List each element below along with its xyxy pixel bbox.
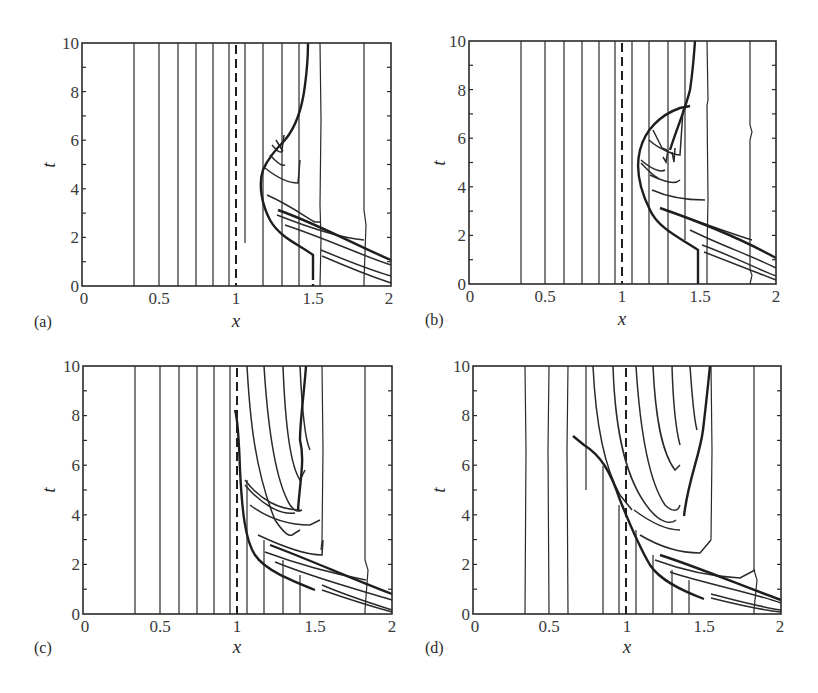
- svg-text:2: 2: [772, 287, 781, 306]
- x-tick-labels: 0 0.5 1 1.5 2: [81, 617, 397, 636]
- svg-text:0.5: 0.5: [534, 287, 555, 306]
- contour-lines: [245, 366, 392, 612]
- x-axis-label: x: [231, 310, 241, 331]
- shock-curve: [573, 436, 704, 599]
- svg-text:0: 0: [80, 289, 89, 308]
- plot-area: [521, 41, 776, 284]
- characteristic-lines: [521, 41, 752, 284]
- svg-text:0.5: 0.5: [538, 617, 559, 636]
- svg-text:4: 4: [462, 506, 471, 525]
- svg-text:8: 8: [72, 406, 81, 425]
- x-axis-label: x: [622, 636, 632, 657]
- contour-lines: [593, 366, 781, 612]
- svg-text:10: 10: [449, 32, 466, 51]
- characteristic-lines: [135, 366, 368, 614]
- svg-text:2: 2: [72, 555, 81, 574]
- svg-text:0.5: 0.5: [149, 617, 170, 636]
- svg-text:8: 8: [458, 81, 467, 100]
- y-axis-label: t: [428, 487, 449, 493]
- y-tick-labels: 0 2 4 6 8 10: [449, 32, 467, 294]
- panel-d: 0 2 4 6 8 10 0 0.5 1 1.5 2 t x (d): [425, 357, 784, 657]
- svg-text:8: 8: [462, 406, 471, 425]
- panel-c: 0 2 4 6 8 10 0 0.5 1 1.5 2 t x (c): [34, 357, 396, 657]
- characteristic-lines: [134, 43, 366, 286]
- svg-text:10: 10: [453, 357, 470, 376]
- svg-text:4: 4: [458, 178, 467, 197]
- svg-text:1.5: 1.5: [693, 617, 714, 636]
- svg-text:6: 6: [462, 456, 471, 475]
- svg-text:2: 2: [388, 617, 397, 636]
- svg-text:6: 6: [458, 129, 467, 148]
- y-axis-label: t: [38, 162, 59, 168]
- shock-curve: [261, 43, 313, 286]
- x-axis-label: x: [617, 308, 627, 329]
- x-axis-label: x: [232, 636, 242, 657]
- svg-text:6: 6: [71, 131, 80, 150]
- plot-area: [135, 366, 392, 614]
- y-tick-labels: 0 2 4 6 8 10: [453, 357, 471, 624]
- fan-edge: [278, 210, 391, 260]
- svg-text:2: 2: [385, 289, 394, 308]
- svg-text:0: 0: [71, 277, 80, 296]
- svg-text:0: 0: [72, 605, 81, 624]
- panel-label: (a): [34, 313, 52, 331]
- svg-text:0: 0: [458, 275, 467, 294]
- svg-text:1: 1: [233, 617, 242, 636]
- svg-text:0: 0: [466, 287, 475, 306]
- svg-text:0: 0: [471, 617, 480, 636]
- panel-a: 0 2 4 6 8 10 0 0.5 1 1.5 2 t x (a): [34, 34, 393, 331]
- plot-area: [525, 366, 781, 614]
- x-tick-labels: 0 0.5 1 1.5 2: [471, 617, 785, 636]
- panel-label: (d): [425, 639, 444, 657]
- svg-text:0.5: 0.5: [148, 289, 169, 308]
- upper-branch: [684, 366, 710, 516]
- figure: 0 2 4 6 8 10 0 0.5 1 1.5 2 t x (a): [0, 0, 818, 693]
- svg-text:4: 4: [71, 180, 80, 199]
- y-tick-labels: 0 2 4 6 8 10: [62, 34, 80, 296]
- y-axis-ticks: [473, 391, 781, 589]
- svg-text:10: 10: [63, 357, 80, 376]
- svg-text:4: 4: [72, 506, 81, 525]
- y-tick-labels: 0 2 4 6 8 10: [63, 357, 81, 624]
- svg-text:1: 1: [232, 289, 241, 308]
- upper-branch: [298, 366, 306, 510]
- plot-area: [134, 43, 391, 286]
- y-axis-label: t: [38, 487, 59, 493]
- svg-text:0: 0: [81, 617, 90, 636]
- svg-text:1.5: 1.5: [302, 289, 323, 308]
- upper-branch: [670, 41, 695, 150]
- svg-text:10: 10: [62, 34, 79, 53]
- svg-text:1.5: 1.5: [689, 287, 710, 306]
- svg-text:6: 6: [72, 456, 81, 475]
- svg-text:8: 8: [71, 83, 80, 102]
- panel-b: 0 2 4 6 8 10 0 0.5 1 1.5 2 t x (b): [425, 32, 780, 329]
- svg-text:2: 2: [458, 226, 467, 245]
- panel-label: (c): [34, 639, 52, 657]
- fan-edge: [270, 545, 392, 594]
- y-axis-label: t: [428, 160, 449, 166]
- fan-edge: [660, 555, 781, 600]
- svg-text:2: 2: [776, 617, 785, 636]
- panel-label: (b): [425, 311, 444, 329]
- contour-lines: [265, 135, 391, 283]
- svg-text:2: 2: [71, 228, 80, 247]
- x-tick-labels: 0 0.5 1 1.5 2: [80, 289, 394, 308]
- svg-text:1: 1: [623, 617, 632, 636]
- x-tick-labels: 0 0.5 1 1.5 2: [466, 287, 781, 306]
- svg-text:1: 1: [618, 287, 627, 306]
- svg-text:2: 2: [462, 555, 471, 574]
- svg-text:1.5: 1.5: [304, 617, 325, 636]
- svg-text:0: 0: [462, 605, 471, 624]
